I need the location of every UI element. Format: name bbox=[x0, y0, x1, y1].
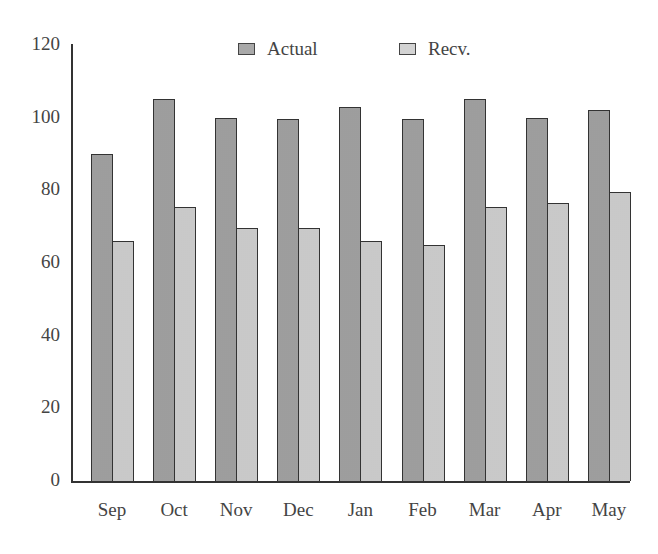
x-tick-label: Jan bbox=[329, 500, 391, 520]
x-tick-label: Feb bbox=[392, 500, 454, 520]
bar-recv-dec bbox=[298, 228, 320, 481]
bar-recv-nov bbox=[236, 228, 258, 481]
legend-swatch-recv-icon bbox=[399, 43, 416, 55]
bar-actual-may bbox=[588, 110, 610, 481]
x-tick-label: Mar bbox=[454, 500, 516, 520]
y-tick-label: 20 bbox=[20, 397, 60, 417]
legend-label-actual: Actual bbox=[267, 38, 318, 60]
x-tick-label: Sep bbox=[81, 500, 143, 520]
bar-actual-sep bbox=[91, 154, 113, 481]
y-tick-label: 60 bbox=[20, 252, 60, 272]
y-tick-label: 0 bbox=[20, 470, 60, 490]
bar-actual-mar bbox=[464, 99, 486, 481]
bar-recv-mar bbox=[485, 207, 507, 481]
bar-actual-dec bbox=[277, 119, 299, 481]
x-tick-label: May bbox=[578, 500, 640, 520]
bar-recv-jan bbox=[360, 241, 382, 481]
bar-actual-feb bbox=[402, 119, 424, 481]
x-tick-label: Apr bbox=[516, 500, 578, 520]
legend-item-actual: Actual bbox=[238, 39, 318, 59]
bar-recv-may bbox=[609, 192, 631, 481]
legend-item-recv: Recv. bbox=[399, 39, 471, 59]
y-tick-label: 40 bbox=[20, 325, 60, 345]
bar-actual-jan bbox=[339, 107, 361, 481]
bar-recv-oct bbox=[174, 207, 196, 481]
y-axis-line bbox=[71, 44, 73, 482]
bar-recv-apr bbox=[547, 203, 569, 481]
bar-actual-apr bbox=[526, 118, 548, 482]
bar-actual-oct bbox=[153, 99, 175, 481]
x-axis-line bbox=[71, 481, 630, 483]
y-tick-label: 80 bbox=[20, 179, 60, 199]
legend-label-recv: Recv. bbox=[428, 38, 471, 60]
bar-actual-nov bbox=[215, 118, 237, 482]
y-tick-label: 100 bbox=[20, 107, 60, 127]
x-tick-label: Nov bbox=[205, 500, 267, 520]
y-tick-label: 120 bbox=[20, 34, 60, 54]
x-tick-label: Dec bbox=[267, 500, 329, 520]
bar-recv-feb bbox=[423, 245, 445, 481]
bar-recv-sep bbox=[112, 241, 134, 481]
x-tick-label: Oct bbox=[143, 500, 205, 520]
legend-swatch-actual-icon bbox=[238, 43, 255, 55]
bar-chart: 020406080100120 SepOctNovDecJanFebMarApr… bbox=[0, 0, 658, 554]
